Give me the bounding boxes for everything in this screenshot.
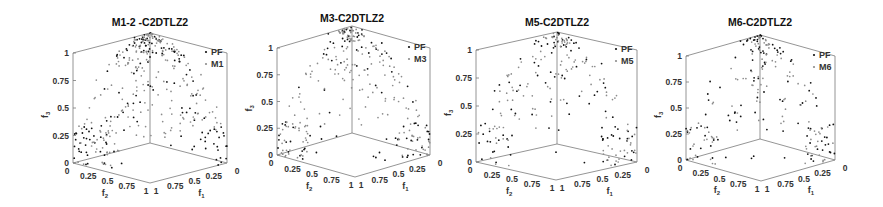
f2-axis-ticks: 00.250.50.751 <box>65 166 149 196</box>
figure-panel: M1-2 -C2DTLZ2 00.250.50.751f300.250.50.7… <box>0 0 883 207</box>
legend: PFM3 <box>408 42 427 64</box>
z-tick-label: 1 <box>677 51 682 61</box>
z-axis-ticks: 00.250.50.751 <box>455 45 479 167</box>
f2-tick-label: 0.75 <box>323 175 340 185</box>
subplot-title: M3-C2DTLZ2 <box>320 12 384 24</box>
f1-axis-ticks: 00.250.50.751 <box>765 163 848 194</box>
f2-tick-label: 0.25 <box>692 168 709 178</box>
f1-tick-label: 1 <box>154 186 159 196</box>
f1-axis-label: f1 <box>198 188 205 199</box>
z-tick-label: 1 <box>64 48 69 58</box>
z-tick-label: 0.75 <box>665 77 682 87</box>
f1-tick-label: 0.25 <box>205 171 222 181</box>
f1-tick-label: 0.5 <box>798 174 810 184</box>
f2-tick-label: 0.25 <box>284 164 301 174</box>
subplot-2: M3-C2DTLZ2 00.250.50.751f300.250.50.751f… <box>244 12 443 192</box>
z-tick-label: 1 <box>467 45 472 55</box>
legend: PFM5 <box>615 44 634 66</box>
f1-tick-label: 0.75 <box>371 175 388 185</box>
f1-tick-label: 0.25 <box>814 168 831 178</box>
z-tick-label: 0.5 <box>670 103 682 113</box>
legend-label: M3 <box>414 54 427 64</box>
legend: PFM1 <box>205 47 224 69</box>
f2-tick-label: 0.5 <box>102 176 114 186</box>
legend-label: M6 <box>819 62 832 72</box>
f2-axis-label: f2 <box>506 186 513 197</box>
z-tick-label: 0.5 <box>460 101 472 111</box>
subplot-1: M1-2 -C2DTLZ2 00.250.50.751f300.250.50.7… <box>40 16 240 199</box>
legend-label: PF <box>621 44 633 54</box>
axes-box <box>686 35 835 181</box>
f2-axis-label: f2 <box>102 188 109 199</box>
f1-tick-label: 0 <box>645 165 650 175</box>
f1-tick-label: 1 <box>560 183 565 193</box>
axes-box <box>277 26 430 177</box>
legend-label: PF <box>414 42 426 52</box>
z-axis-label: f3 <box>40 111 51 118</box>
z-tick-label: 0.25 <box>256 123 273 133</box>
z-axis-ticks: 00.250.50.751 <box>52 48 76 168</box>
legend-marker <box>205 51 207 53</box>
z-tick-label: 1 <box>268 43 273 53</box>
legend-label: PF <box>211 47 223 57</box>
legend-marker <box>408 46 410 48</box>
f1-tick-label: 0.75 <box>574 179 591 189</box>
z-tick-label: 0.75 <box>455 73 472 83</box>
f1-tick-label: 0.25 <box>409 164 426 174</box>
f1-tick-label: 0.5 <box>393 169 405 179</box>
z-tick-label: 0.25 <box>52 131 69 141</box>
f1-tick-label: 0.75 <box>167 181 184 191</box>
f1-tick-label: 0 <box>438 158 443 168</box>
f1-tick-label: 0.5 <box>189 176 201 186</box>
f1-tick-label: 0.5 <box>597 174 609 184</box>
axes-box <box>73 33 227 183</box>
z-tick-label: 0.75 <box>52 76 69 86</box>
f1-tick-label: 0.75 <box>777 179 794 189</box>
z-axis-ticks: 00.250.50.751 <box>665 51 689 165</box>
f2-tick-label: 0 <box>468 165 473 175</box>
series-m1 <box>77 33 221 166</box>
f2-tick-label: 0.25 <box>80 171 97 181</box>
f2-tick-label: 0.75 <box>118 181 135 191</box>
f2-tick-label: 0 <box>269 158 274 168</box>
f1-axis-ticks: 00.250.50.751 <box>359 158 443 190</box>
legend-marker <box>813 66 815 68</box>
f2-tick-label: 1 <box>144 186 149 196</box>
f1-axis-label: f1 <box>808 185 815 196</box>
f1-tick-label: 0.25 <box>614 170 631 180</box>
z-axis-label: f3 <box>443 109 454 116</box>
series-pf <box>73 32 228 168</box>
legend-marker <box>813 54 815 56</box>
series-pf <box>478 32 637 166</box>
f2-tick-label: 0.75 <box>524 179 541 189</box>
subplot-title: M1-2 -C2DTLZ2 <box>112 16 189 28</box>
legend-label: PF <box>819 50 831 60</box>
legend-marker <box>205 63 207 65</box>
subplot-title: M5-C2DTLZ2 <box>525 16 589 28</box>
f1-tick-label: 1 <box>765 184 770 194</box>
subplot-4: M6-C2DTLZ2 00.250.50.751f300.250.50.751f… <box>653 16 848 196</box>
f2-tick-label: 0.75 <box>730 179 747 189</box>
z-tick-label: 0.25 <box>665 129 682 139</box>
f1-tick-label: 0 <box>843 163 848 173</box>
z-axis-label: f3 <box>653 111 664 118</box>
subplot-3: M5-C2DTLZ2 00.250.50.751f300.250.50.751f… <box>443 16 650 197</box>
z-tick-label: 0.75 <box>256 70 273 80</box>
f2-tick-label: 0.5 <box>714 174 726 184</box>
legend: PFM6 <box>813 50 832 72</box>
legend-label: M1 <box>211 59 224 69</box>
f1-axis-label: f1 <box>402 181 409 192</box>
z-tick-label: 0.5 <box>57 103 69 113</box>
z-axis-ticks: 00.250.50.751 <box>256 43 280 160</box>
legend-marker <box>615 48 617 50</box>
f2-axis-ticks: 00.250.50.751 <box>468 165 555 193</box>
subplot-title: M6-C2DTLZ2 <box>728 16 792 28</box>
f2-axis-label: f2 <box>714 185 721 196</box>
legend-label: M5 <box>621 56 634 66</box>
f2-tick-label: 0.5 <box>506 174 518 184</box>
axes-box <box>476 32 637 180</box>
f2-tick-label: 0 <box>678 163 683 173</box>
z-tick-label: 0.5 <box>261 97 273 107</box>
f2-axis-label: f2 <box>306 181 313 192</box>
f2-tick-label: 1 <box>755 184 760 194</box>
